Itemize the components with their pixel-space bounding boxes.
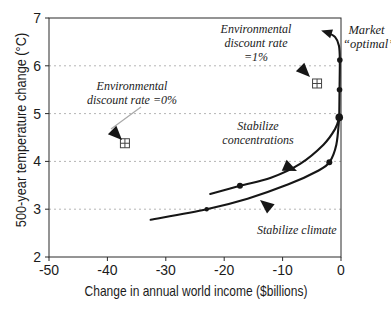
- data-point-marker: [237, 183, 243, 189]
- y-tick-label: 4: [33, 153, 41, 169]
- annotation-stabilize-concentrations: Stabilize concentrations: [216, 119, 300, 147]
- data-point-marker: [335, 114, 343, 122]
- annotation-leader-line: [111, 107, 141, 129]
- plot-area: 765432-50-40-30-20-100: [0, 0, 391, 310]
- y-axis-title: 500-year temperature change (°C): [12, 33, 29, 227]
- arrow-stabilize-climate-icon: [260, 200, 275, 214]
- annotation-line: concentrations: [216, 133, 300, 147]
- figure-temperature-vs-income-chart: 765432-50-40-30-20-100 500-year temperat…: [0, 0, 391, 310]
- data-point-marker: [204, 207, 208, 211]
- annotation-line: Market: [343, 23, 390, 37]
- x-axis-title: Change in annual world income ($billions…: [85, 282, 308, 299]
- annotation-line: discount rate =0%: [86, 93, 178, 107]
- y-tick-label: 7: [33, 10, 41, 26]
- data-point-marker: [337, 57, 343, 63]
- data-point-marker: [326, 159, 332, 165]
- annotation-line: “optimal”: [343, 37, 390, 51]
- annotation-line: Environmental: [86, 79, 178, 93]
- y-tick-label: 5: [33, 106, 41, 122]
- arrow-env-discount-0-icon: [108, 126, 122, 140]
- annotation-env-discount-0: Environmental discount rate =0%: [86, 79, 178, 107]
- x-tick-label: -50: [39, 262, 59, 278]
- annotation-line: discount rate =1%: [211, 36, 301, 64]
- y-tick-label: 3: [33, 201, 41, 217]
- data-point-marker: [337, 87, 343, 93]
- x-tick-label: -40: [97, 262, 117, 278]
- curve-end-arrow-icon: [321, 30, 333, 39]
- arrow-env-discount-1-icon: [296, 63, 310, 77]
- series-market-optimal-path: [327, 32, 340, 117]
- annotation-stabilize-climate: Stabilize climate: [257, 223, 337, 237]
- x-tick-label: 0: [337, 262, 345, 278]
- annotation-line: Stabilize: [216, 119, 300, 133]
- x-tick-label: -30: [156, 262, 176, 278]
- x-tick-label: -20: [214, 262, 234, 278]
- annotation-line: Stabilize climate: [257, 223, 337, 237]
- annotation-market-optimal: Market “optimal”: [343, 23, 390, 51]
- annotation-env-discount-1: Environmental discount rate =1%: [211, 22, 301, 64]
- x-tick-label: -10: [272, 262, 292, 278]
- annotation-line: Environmental: [211, 22, 301, 36]
- y-tick-label: 6: [33, 58, 41, 74]
